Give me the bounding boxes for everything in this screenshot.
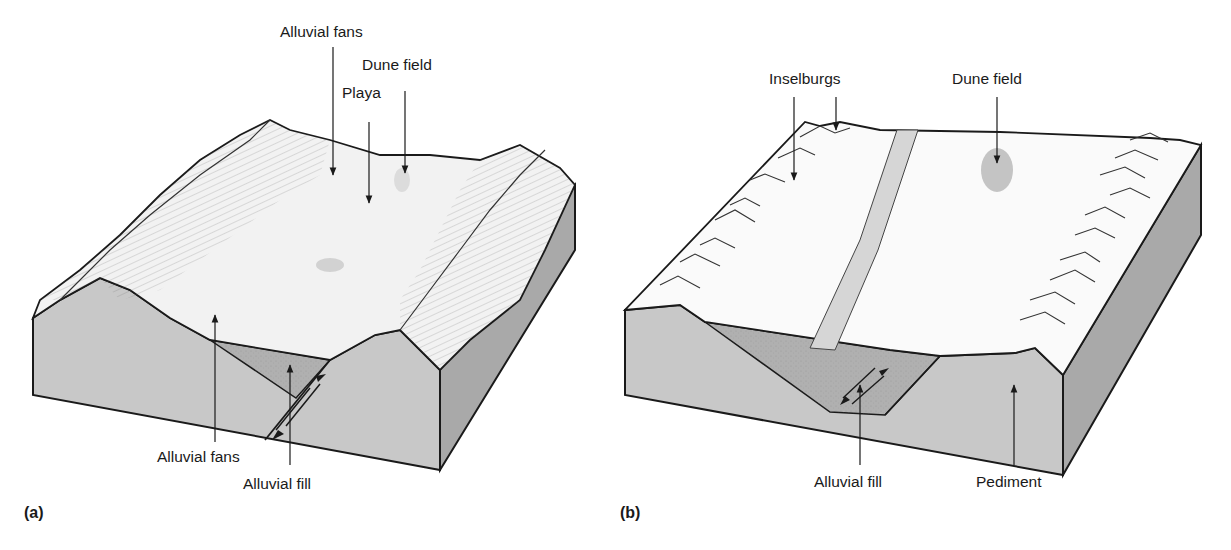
panel-a-block-diagram bbox=[33, 120, 575, 470]
label-alluvial-fill-b: Alluvial fill bbox=[814, 474, 882, 490]
figure-canvas bbox=[0, 0, 1231, 550]
label-inselburgs: Inselburgs bbox=[769, 71, 841, 87]
panel-tag-a: (a) bbox=[24, 505, 44, 521]
label-playa: Playa bbox=[342, 85, 381, 101]
panel-a-playa bbox=[316, 258, 344, 272]
panel-b-block-diagram bbox=[625, 122, 1201, 475]
label-dune-field-b: Dune field bbox=[952, 71, 1022, 87]
panel-tag-b: (b) bbox=[620, 505, 640, 521]
label-alluvial-fill-a: Alluvial fill bbox=[243, 476, 311, 492]
label-alluvial-fans-bottom: Alluvial fans bbox=[157, 449, 240, 465]
label-alluvial-fans-top: Alluvial fans bbox=[280, 24, 363, 40]
label-pediment: Pediment bbox=[976, 474, 1041, 490]
label-dune-field-a: Dune field bbox=[362, 57, 432, 73]
panel-a-dune-field bbox=[394, 168, 410, 192]
